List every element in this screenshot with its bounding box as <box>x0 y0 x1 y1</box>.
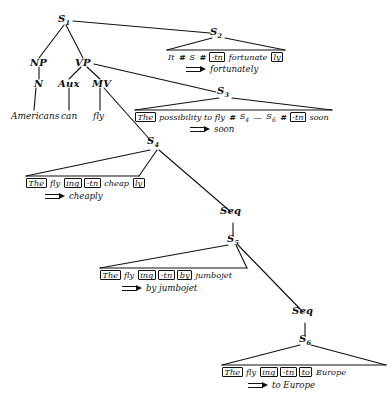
node-s4: S4 <box>147 136 159 149</box>
token: -tn <box>84 178 100 188</box>
edge-s3-left <box>135 98 219 110</box>
node-s1: S1 <box>58 14 70 27</box>
edge-s5-right <box>236 245 247 268</box>
edge-s4-seq <box>159 150 231 212</box>
token: ly <box>133 178 145 188</box>
terminal-fly: fly <box>93 112 104 121</box>
edge-s5-seq <box>238 245 303 312</box>
node-vp: VP <box>75 58 91 68</box>
edge-s6-left <box>222 345 300 365</box>
node-seq-upper: Seq <box>220 206 241 216</box>
edge-s2-right <box>225 38 285 50</box>
node-s3: S3 <box>217 86 229 99</box>
edge-s4-left <box>26 150 150 176</box>
token: -tn <box>209 52 225 62</box>
rewrite-s4-text: cheaply <box>69 192 103 201</box>
edge-s1-np <box>39 25 64 58</box>
string-s2: It#S#-tnfortunately <box>167 52 283 62</box>
edge-s5-left <box>100 245 228 268</box>
rewrite-s2-text: fortunately <box>210 65 258 74</box>
token: S <box>188 53 196 61</box>
string-s6: Theflying-tntoEurope <box>222 367 347 377</box>
token: ing <box>64 178 82 188</box>
rewrite-s2: fortunately <box>186 65 258 74</box>
token: # <box>279 113 287 121</box>
token: cheap <box>103 179 130 187</box>
token: — <box>253 113 263 121</box>
double-arrow-icon <box>190 126 210 133</box>
token: fortunate <box>228 53 269 61</box>
token: -tn <box>280 367 296 377</box>
token: fly <box>49 179 61 187</box>
node-s5: S5 <box>227 234 239 247</box>
token: The <box>26 178 47 188</box>
edge-s2-left <box>167 38 212 50</box>
rewrite-s6: to Europe <box>248 381 315 390</box>
node-n: N <box>34 79 43 89</box>
double-arrow-icon <box>122 285 142 292</box>
rewrite-s5: by jumbojet <box>122 284 197 293</box>
token: Europe <box>315 368 347 376</box>
terminal-americans: Americans <box>11 112 59 121</box>
token: It <box>167 53 176 61</box>
string-s5: Theflying-tnbyjumbojet <box>100 270 233 280</box>
edge-s4-right <box>139 150 157 176</box>
token: soon <box>308 113 329 121</box>
token: ly <box>271 52 283 62</box>
token: fly <box>245 368 257 376</box>
rewrite-s6-text: to Europe <box>272 381 315 390</box>
token: -tn <box>290 112 306 122</box>
edge-n-americans <box>34 88 36 110</box>
node-np: NP <box>30 58 47 68</box>
token: jumbojet <box>195 271 233 279</box>
edge-s3-right <box>232 98 332 110</box>
edge-s1-vp <box>66 25 83 58</box>
rewrite-s3: soon <box>190 125 234 134</box>
rewrite-s4: cheaply <box>45 192 103 201</box>
token: # <box>199 53 207 61</box>
token: The <box>135 112 156 122</box>
node-aux: Aux <box>58 79 80 89</box>
token: # <box>178 53 186 61</box>
token: The <box>222 367 243 377</box>
string-s3: Thepossibility to fly#S4—S6#-tnsoon <box>135 112 330 123</box>
edge-s6-right <box>311 345 386 365</box>
token: to <box>299 367 312 377</box>
token: The <box>100 270 121 280</box>
token-subscript: 6 <box>272 116 276 123</box>
double-arrow-icon <box>186 66 206 73</box>
token: -tn <box>158 270 174 280</box>
string-s4: Theflying-tncheaply <box>26 178 145 188</box>
token: ing <box>138 270 156 280</box>
token: by <box>177 270 192 280</box>
double-arrow-icon <box>45 193 65 200</box>
double-arrow-icon <box>248 382 268 389</box>
node-s2: S2 <box>210 27 222 40</box>
syntax-tree-diagram: S1 S2 S3 S4 S5 S6 NP N VP Aux MV Seq Seq… <box>0 0 392 405</box>
token: fly <box>123 271 135 279</box>
token: possibility to fly <box>158 113 226 121</box>
rewrite-s5-text: by jumbojet <box>146 284 197 293</box>
token: ing <box>260 367 278 377</box>
node-seq-lower: Seq <box>292 306 313 316</box>
terminal-can: can <box>61 112 77 121</box>
token: # <box>228 113 236 121</box>
token: S4 <box>239 112 250 123</box>
node-mv: MV <box>92 79 111 89</box>
token-subscript: 4 <box>245 116 249 123</box>
token: S6 <box>265 112 276 123</box>
rewrite-s3-text: soon <box>214 125 234 134</box>
edge-s1-s2 <box>73 21 210 33</box>
node-s6: S6 <box>299 334 311 347</box>
